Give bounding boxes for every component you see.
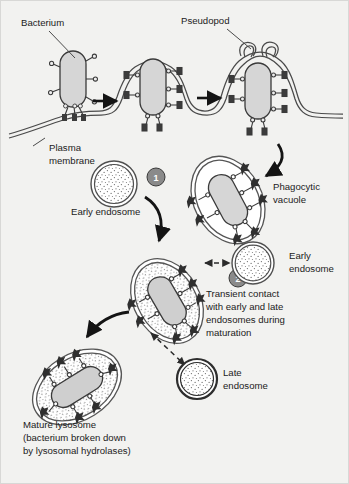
diagram-canvas: 1 2 [1, 1, 349, 484]
step-1-number: 1 [153, 173, 158, 183]
label-bacterium: Bacterium [21, 17, 64, 28]
stage-attachment [49, 51, 98, 121]
late-endosome [177, 359, 217, 399]
early-endosome-top [91, 161, 137, 207]
label-late-endosome-line2: endosome [223, 380, 268, 391]
stage-engulfment [124, 59, 182, 131]
arrow-pseudopod-to-vacuole [266, 144, 282, 176]
plasma-membrane [9, 52, 343, 138]
stage-vacuole [171, 142, 283, 260]
label-mature-lysosome-line1: Mature lysosome [23, 419, 96, 430]
label-early-endosome-top: Early endosome [71, 206, 140, 217]
label-transient-line3: endosomes during [206, 314, 285, 325]
arrow-vacuole-to-maturing [145, 197, 161, 241]
label-early-endosome-mid-line1: Early [289, 250, 311, 261]
label-mature-lysosome-line2: (bacterium broken down [23, 432, 126, 443]
phagocytosis-diagram: 1 2 [0, 0, 349, 484]
label-plasma-membrane-line1: Plasma [49, 142, 82, 153]
arrow-maturing-to-lysosome [87, 312, 129, 337]
label-phagocytic-vacuole-line2: vacuole [273, 194, 306, 205]
label-early-endosome-mid-line2: endosome [289, 263, 334, 274]
label-phagocytic-vacuole-line1: Phagocytic [273, 181, 320, 192]
label-transient-line4: maturation [206, 327, 251, 338]
label-pseudopod: Pseudopod [181, 15, 230, 26]
stage-maturing [111, 244, 222, 360]
label-transient-line1: Transient contact [206, 288, 280, 299]
label-mature-lysosome-line3: by lysosomal hydrolases) [23, 445, 131, 456]
label-transient-line2: with early and late [205, 301, 283, 312]
step-1-marker: 1 [147, 168, 165, 186]
early-endosome-mid [232, 242, 274, 284]
label-late-endosome-line1: Late [223, 367, 242, 378]
label-plasma-membrane-line2: membrane [49, 155, 95, 166]
